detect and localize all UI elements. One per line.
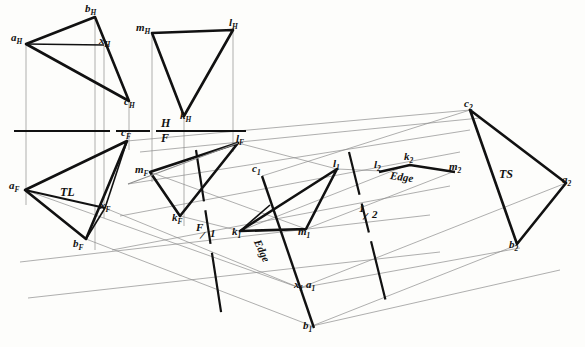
f-view-triangle-abc	[25, 141, 127, 239]
annotation-true-size: TS	[499, 168, 513, 180]
point-label-k-aux2: k2	[404, 151, 413, 165]
triangle-mkl-aux1	[240, 169, 337, 231]
band-rail-7	[300, 248, 520, 288]
point-label-x-h: xH	[99, 35, 110, 49]
projector-a1-a2	[300, 183, 566, 288]
fold-label-F1-1: 1	[210, 228, 216, 239]
aux2-triangle-abc	[470, 110, 566, 244]
projector-c1-c2	[262, 110, 470, 176]
vertex-label-c-f: cF	[121, 127, 131, 141]
triangle-abc-h	[26, 17, 129, 101]
fold-line-F1	[196, 150, 222, 318]
fold-label-H: H	[161, 117, 170, 129]
vertex-label-m-aux1: m1	[298, 226, 310, 240]
point-label-m-aux2: m2	[449, 161, 461, 175]
band-rail-8	[312, 270, 560, 326]
projector-m1-m2	[306, 171, 455, 229]
cut-line-ax-h	[26, 44, 104, 45]
h-view-triangle-abc	[26, 17, 129, 101]
vertex-label-c-h: cH	[124, 96, 135, 110]
vertex-label-b-h: bH	[85, 3, 96, 17]
vertex-label-l-h: lH	[229, 17, 238, 31]
vertex-label-b-f: bF	[73, 238, 83, 252]
vertex-label-k-h: kH	[180, 110, 191, 124]
triangle-abc-aux2-true-size	[470, 110, 566, 244]
fold-label-F: F	[161, 132, 169, 144]
h-view-triangle-mkl	[152, 30, 233, 116]
band-rail-6	[28, 252, 440, 298]
vertex-label-l-f: lF	[236, 133, 244, 147]
vertex-label-l-aux1: l1	[333, 158, 340, 172]
vertex-label-a-aux2: a2	[562, 174, 571, 188]
projector-lines	[20, 17, 566, 326]
point-label-b-aux1: b1	[303, 320, 312, 334]
vertex-label-a-f: aF	[9, 180, 19, 194]
projector-b1-b2	[312, 245, 517, 326]
f-view-triangle-mkl	[128, 143, 238, 216]
descriptive-geometry-drawing	[0, 0, 585, 347]
point-label-c-aux1: c1	[252, 163, 261, 177]
band-rail-2	[128, 130, 470, 184]
point-label-xa-aux1: x1 a1	[294, 279, 315, 293]
vertex-label-c-aux2: c2	[464, 98, 473, 112]
fold-label-12-2: 2	[372, 209, 378, 220]
triangle-mkl-f	[150, 143, 238, 216]
aux1-internal-line	[240, 205, 270, 231]
aux1-triangle-mkl	[240, 169, 337, 231]
annotation-true-length: TL	[60, 186, 75, 198]
triangle-mkl-h	[152, 30, 233, 116]
vertex-label-m-f: mF	[135, 164, 149, 178]
fold-line-12	[349, 152, 386, 302]
band-rail-4	[112, 186, 450, 250]
vertex-label-b-aux2: b2	[509, 239, 518, 253]
vertex-label-k-aux1: k1	[232, 226, 241, 240]
vertex-label-a-h: aH	[11, 32, 22, 46]
point-label-l-aux2: l2	[374, 159, 381, 173]
drawing-sheet: H F F / 1 1 / 2 aH bH cH xH mH lH kH aF …	[0, 0, 585, 347]
vertex-label-m-h: mH	[136, 22, 150, 36]
vertex-label-k-f: kF	[172, 212, 182, 226]
point-label-x-f: xF	[100, 200, 110, 214]
